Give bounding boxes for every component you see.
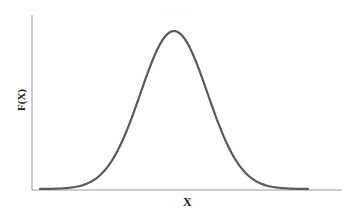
bell-curve-chart xyxy=(0,0,362,213)
x-axis-label: X xyxy=(183,195,192,210)
distribution-curve xyxy=(40,31,308,189)
y-axis-label: F(X) xyxy=(15,85,27,115)
